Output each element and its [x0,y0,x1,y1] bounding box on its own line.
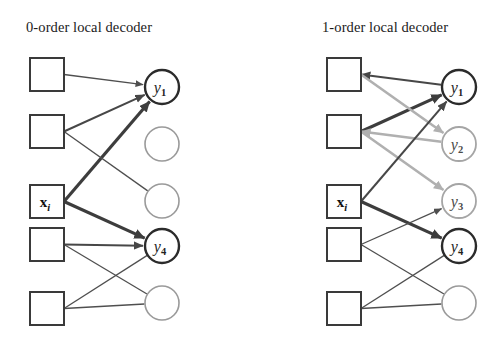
output-node-y4[interactable]: y4 [442,229,476,263]
input-node-box [30,58,64,91]
input-node-x2[interactable] [327,115,361,148]
output-node-y1[interactable]: y1 [442,70,476,104]
input-node-box [327,58,361,91]
panel-title-one-order: 1-order local decoder [322,19,448,35]
output-node-circle [442,286,476,320]
output-node-c2[interactable] [145,127,179,161]
input-node-x3[interactable]: xi [327,185,361,218]
input-node-x3[interactable]: xi [30,185,64,218]
decoder-diagram-figure: 0-order local decoder xiy1y4 1-order loc… [0,0,504,350]
output-node-circle [145,184,179,218]
output-node-c3[interactable] [145,184,179,218]
output-node-y3[interactable]: y3 [442,184,476,218]
input-node-x2[interactable] [30,115,64,148]
output-node-y1[interactable]: y1 [145,70,179,104]
edge-x4-to-y4 [64,245,143,246]
input-node-x4[interactable] [327,228,361,261]
input-node-x5[interactable] [327,292,361,325]
input-node-box [30,228,64,261]
input-node-box [327,115,361,148]
input-node-x1[interactable] [327,58,361,91]
input-node-x5[interactable] [30,292,64,325]
output-node-c5[interactable] [145,286,179,320]
input-node-x1[interactable] [30,58,64,91]
input-node-x4[interactable] [30,228,64,261]
output-node-y4[interactable]: y4 [145,229,179,263]
output-node-circle [145,127,179,161]
input-node-box [30,292,64,325]
output-node-c5[interactable] [442,286,476,320]
figure-background [0,0,504,350]
input-node-box [30,115,64,148]
output-node-y2[interactable]: y2 [442,127,476,161]
panel-title-zero-order: 0-order local decoder [26,19,152,35]
input-node-box [327,228,361,261]
output-node-circle [145,286,179,320]
input-node-box [327,292,361,325]
